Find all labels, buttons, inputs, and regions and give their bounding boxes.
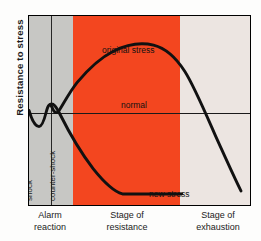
stage-caption-alarm-line2: reaction bbox=[22, 222, 78, 234]
label-normal: normal bbox=[121, 100, 147, 110]
stage-caption-resistance: Stage of resistance bbox=[75, 210, 179, 233]
stage-caption-resistance-line1: Stage of bbox=[75, 210, 179, 222]
label-counter-shock: counter-shock bbox=[48, 151, 57, 201]
stage-caption-exhaustion: Stage of exhaustion bbox=[181, 210, 255, 233]
stage-caption-resistance-line2: resistance bbox=[75, 222, 179, 234]
stress-response-chart: Resistance to stress original stress nor… bbox=[0, 0, 261, 241]
y-axis-title: Resistance to stress bbox=[14, 3, 25, 133]
label-original-stress: original stress bbox=[102, 45, 154, 55]
stage-caption-alarm-line1: Alarm bbox=[22, 210, 78, 222]
stage-caption-exhaustion-line2: exhaustion bbox=[181, 222, 255, 234]
plot-area: original stress normal new stress shock … bbox=[28, 15, 251, 206]
stage-caption-exhaustion-line1: Stage of bbox=[181, 210, 255, 222]
label-shock: shock bbox=[28, 180, 34, 201]
new-stress-curve bbox=[50, 104, 182, 194]
label-new-stress: new stress bbox=[149, 189, 190, 199]
stage-caption-alarm: Alarm reaction bbox=[22, 210, 78, 233]
